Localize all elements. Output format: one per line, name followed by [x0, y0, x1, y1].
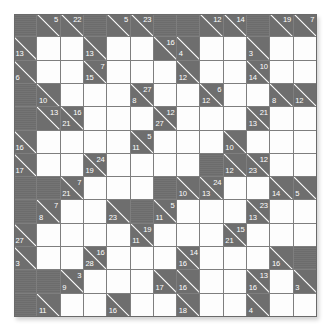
answer-cell[interactable] [84, 200, 107, 223]
answer-cell[interactable] [84, 224, 107, 247]
answer-cell[interactable] [61, 224, 84, 247]
answer-cell[interactable] [131, 270, 154, 293]
down-clue-value: 4 [249, 307, 253, 315]
answer-cell[interactable] [131, 107, 154, 130]
answer-cell[interactable] [154, 294, 177, 317]
answer-cell[interactable] [131, 177, 154, 200]
answer-cell[interactable] [177, 107, 200, 130]
answer-cell[interactable] [107, 37, 130, 60]
answer-cell[interactable] [107, 107, 130, 130]
answer-cell[interactable] [294, 131, 317, 154]
answer-cell[interactable] [270, 154, 293, 177]
answer-cell[interactable] [107, 154, 130, 177]
answer-cell[interactable] [154, 131, 177, 154]
answer-cell[interactable] [247, 131, 270, 154]
answer-cell[interactable] [200, 200, 223, 223]
answer-cell[interactable] [224, 200, 247, 223]
answer-cell[interactable] [270, 107, 293, 130]
answer-cell[interactable] [61, 61, 84, 84]
answer-cell[interactable] [270, 61, 293, 84]
answer-cell[interactable] [200, 37, 223, 60]
answer-cell[interactable] [61, 154, 84, 177]
answer-cell[interactable] [84, 294, 107, 317]
answer-cell[interactable] [84, 131, 107, 154]
answer-cell[interactable] [37, 37, 60, 60]
answer-cell[interactable] [294, 37, 317, 60]
answer-cell[interactable] [224, 270, 247, 293]
answer-cell[interactable] [224, 247, 247, 270]
answer-cell[interactable] [37, 61, 60, 84]
answer-cell[interactable] [154, 224, 177, 247]
answer-cell[interactable] [154, 247, 177, 270]
answer-cell[interactable] [107, 131, 130, 154]
answer-cell[interactable] [200, 247, 223, 270]
answer-cell[interactable] [107, 61, 130, 84]
down-clue-value: 4 [179, 50, 183, 58]
answer-cell[interactable] [224, 37, 247, 60]
answer-cell[interactable] [154, 61, 177, 84]
answer-cell[interactable] [294, 107, 317, 130]
answer-cell[interactable] [131, 294, 154, 317]
answer-cell[interactable] [61, 294, 84, 317]
answer-cell[interactable] [270, 224, 293, 247]
answer-cell[interactable] [131, 154, 154, 177]
answer-cell[interactable] [294, 294, 317, 317]
answer-cell[interactable] [177, 131, 200, 154]
answer-cell[interactable] [224, 177, 247, 200]
answer-cell[interactable] [131, 61, 154, 84]
answer-cell[interactable] [61, 200, 84, 223]
answer-cell[interactable] [131, 37, 154, 60]
answer-cell[interactable] [84, 107, 107, 130]
answer-cell[interactable] [177, 154, 200, 177]
answer-cell[interactable] [61, 131, 84, 154]
answer-cell[interactable] [61, 37, 84, 60]
answer-cell[interactable] [270, 37, 293, 60]
answer-cell[interactable] [224, 294, 247, 317]
answer-cell[interactable] [247, 177, 270, 200]
answer-cell[interactable] [200, 294, 223, 317]
answer-cell[interactable] [84, 84, 107, 107]
answer-cell[interactable] [200, 61, 223, 84]
answer-cell[interactable] [294, 200, 317, 223]
answer-cell[interactable] [37, 247, 60, 270]
answer-cell[interactable] [270, 294, 293, 317]
answer-cell[interactable] [154, 84, 177, 107]
answer-cell[interactable] [177, 224, 200, 247]
answer-cell[interactable] [61, 84, 84, 107]
answer-cell[interactable] [294, 224, 317, 247]
answer-cell[interactable] [107, 247, 130, 270]
answer-cell[interactable] [200, 131, 223, 154]
kakuro-grid[interactable]: 5225231214197131316436715121014102786128… [14, 14, 317, 317]
answer-cell[interactable] [131, 247, 154, 270]
answer-cell[interactable] [84, 270, 107, 293]
answer-cell[interactable] [270, 270, 293, 293]
answer-cell[interactable] [294, 61, 317, 84]
answer-cell[interactable] [247, 224, 270, 247]
answer-cell[interactable] [107, 177, 130, 200]
answer-cell[interactable] [224, 61, 247, 84]
answer-cell[interactable] [247, 247, 270, 270]
answer-cell[interactable] [107, 84, 130, 107]
answer-cell[interactable] [224, 107, 247, 130]
answer-cell[interactable] [37, 131, 60, 154]
clue-cell: 12 [294, 84, 317, 107]
answer-cell[interactable] [200, 270, 223, 293]
answer-cell[interactable] [200, 107, 223, 130]
answer-cell[interactable] [154, 154, 177, 177]
answer-cell[interactable] [61, 247, 84, 270]
answer-cell[interactable] [107, 224, 130, 247]
answer-cell[interactable] [270, 200, 293, 223]
answer-cell[interactable] [37, 154, 60, 177]
answer-cell[interactable] [37, 224, 60, 247]
answer-cell[interactable] [177, 200, 200, 223]
down-clue-value: 23 [249, 167, 257, 175]
answer-cell[interactable] [177, 84, 200, 107]
answer-cell[interactable] [294, 154, 317, 177]
clue-cell: 7 [294, 14, 317, 37]
answer-cell[interactable] [247, 84, 270, 107]
answer-cell[interactable] [107, 270, 130, 293]
answer-cell[interactable] [270, 131, 293, 154]
answer-cell[interactable] [200, 224, 223, 247]
answer-cell[interactable] [224, 84, 247, 107]
answer-cell[interactable] [84, 177, 107, 200]
